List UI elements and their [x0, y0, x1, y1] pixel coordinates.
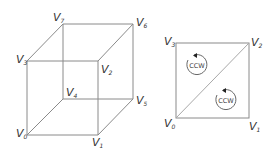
edge-v2-v6 [98, 24, 133, 61]
label-v5: V5 [136, 94, 148, 107]
label-v7: V7 [53, 11, 65, 24]
ccw-indicator-upper: CCW [187, 53, 207, 75]
label-v4: V4 [66, 86, 78, 99]
square-quad [176, 43, 249, 118]
label-v2: V2 [101, 63, 113, 76]
label-v0: V0 [16, 127, 28, 140]
ccw-indicator-lower: CCW [216, 88, 236, 110]
square-diagonal-v0-v2 [176, 43, 249, 118]
edge-v3-v7 [27, 24, 63, 61]
edge-v1-v5 [98, 99, 133, 135]
square-label-v1: V1 [249, 120, 260, 133]
diagram-canvas: V7 V6 V3 V2 V4 V5 V0 V1 V3 V2 V0 V1 CCW … [0, 0, 270, 160]
square-label-v2: V2 [251, 36, 263, 49]
arrow-left-icon [193, 53, 197, 58]
cube-wireframe [27, 24, 133, 135]
square-label-v3: V3 [164, 35, 176, 48]
cube-labels: V7 V6 V3 V2 V4 V5 V0 V1 [16, 11, 148, 149]
ccw-label-upper: CCW [189, 62, 205, 70]
label-v1: V1 [92, 136, 103, 149]
label-v6: V6 [136, 16, 148, 29]
label-v3: V3 [16, 53, 28, 66]
ccw-label-lower: CCW [218, 97, 234, 105]
square-label-v0: V0 [164, 117, 176, 130]
edge-v0-v4 [27, 99, 63, 135]
arrow-left-icon [222, 88, 226, 93]
